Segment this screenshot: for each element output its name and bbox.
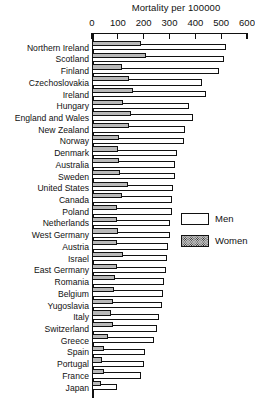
- bar-row: Romania: [0, 277, 255, 289]
- bar-women: [92, 346, 104, 351]
- bar-women: [92, 170, 120, 175]
- bar-row: Portugal: [0, 359, 255, 371]
- bar-women: [92, 64, 122, 69]
- bar-women: [92, 217, 117, 222]
- bar-row: Norway: [0, 136, 255, 148]
- legend-label-men: Men: [215, 213, 233, 225]
- bar-row: France: [0, 371, 255, 383]
- bar-women: [92, 369, 104, 374]
- country-label: Czechoslovakia: [29, 78, 89, 88]
- bar-row: New Zealand: [0, 125, 255, 137]
- bar-row: Japan: [0, 382, 255, 394]
- bar-row: Switzerland: [0, 324, 255, 336]
- bar-women: [92, 88, 133, 93]
- country-label: Portugal: [57, 359, 89, 369]
- country-label: Scotland: [56, 54, 89, 64]
- bar-women: [92, 287, 114, 292]
- bar-women: [92, 205, 117, 210]
- country-label: Ireland: [63, 90, 89, 100]
- chart-legend: Men Women: [181, 211, 253, 255]
- bar-women: [92, 100, 123, 105]
- country-label: Norway: [60, 136, 89, 146]
- bar-women: [92, 310, 111, 315]
- bar-women: [92, 41, 141, 46]
- mortality-bar-chart: Mortality per 100000 0100200300400500600…: [0, 0, 255, 402]
- country-label: Sweden: [58, 172, 89, 182]
- country-label: Romania: [55, 277, 89, 287]
- bar-row: Canada: [0, 195, 255, 207]
- country-label: Denmark: [54, 148, 89, 158]
- country-label: Poland: [62, 207, 89, 217]
- bar-row: Australia: [0, 160, 255, 172]
- legend-label-women: Women: [215, 235, 248, 247]
- legend-swatch-women-icon: [181, 235, 209, 247]
- bar-row: Italy: [0, 312, 255, 324]
- bar-women: [92, 135, 119, 140]
- bar-row: Yugoslavia: [0, 300, 255, 312]
- country-label: Israel: [68, 254, 89, 264]
- bar-women: [92, 53, 146, 58]
- bar-row: Greece: [0, 336, 255, 348]
- bar-women: [92, 123, 129, 128]
- bar-women: [92, 193, 122, 198]
- country-label: Spain: [67, 347, 89, 357]
- country-label: Canada: [59, 195, 89, 205]
- bar-women: [92, 158, 119, 163]
- bar-women: [92, 299, 113, 304]
- country-label: West Germany: [32, 230, 89, 240]
- bar-women: [92, 357, 102, 362]
- bar-women: [92, 240, 117, 245]
- bar-women: [92, 146, 118, 151]
- bar-women: [92, 182, 128, 187]
- country-label: France: [62, 371, 89, 381]
- bar-row: East Germany: [0, 265, 255, 277]
- country-label: Australia: [56, 160, 89, 170]
- legend-item-men: Men: [181, 211, 253, 233]
- legend-item-women: Women: [181, 233, 253, 255]
- bar-row: Belgium: [0, 289, 255, 301]
- country-label: Finland: [61, 66, 89, 76]
- bar-row: Scotland: [0, 54, 255, 66]
- country-label: Hungary: [57, 101, 89, 111]
- country-label: Belgium: [58, 289, 89, 299]
- bar-women: [92, 275, 115, 280]
- bar-women: [92, 264, 117, 269]
- country-label: Greece: [61, 336, 89, 346]
- country-label: United States: [37, 183, 89, 193]
- bar-women: [92, 76, 129, 81]
- bar-row: Denmark: [0, 148, 255, 160]
- bar-women: [92, 334, 108, 339]
- country-label: England and Wales: [15, 113, 89, 123]
- country-label: Austria: [62, 242, 89, 252]
- bar-women: [92, 252, 123, 257]
- bar-row: United States: [0, 183, 255, 195]
- bar-row: Spain: [0, 347, 255, 359]
- country-label: Italy: [73, 312, 89, 322]
- country-label: Northern Ireland: [27, 43, 89, 53]
- country-label: New Zealand: [38, 125, 89, 135]
- bar-rows: Northern IrelandScotlandFinlandCzechoslo…: [0, 0, 255, 402]
- bar-row: Ireland: [0, 89, 255, 101]
- country-label: Netherlands: [43, 218, 89, 228]
- bar-row: Israel: [0, 253, 255, 265]
- bar-women: [92, 322, 113, 327]
- bar-women: [92, 111, 131, 116]
- bar-women: [92, 228, 118, 233]
- country-label: Japan: [66, 383, 89, 393]
- country-label: East Germany: [34, 265, 89, 275]
- legend-swatch-men-icon: [181, 213, 209, 225]
- country-label: Switzerland: [45, 324, 89, 334]
- bar-women: [92, 381, 101, 386]
- country-label: Yugoslavia: [47, 301, 89, 311]
